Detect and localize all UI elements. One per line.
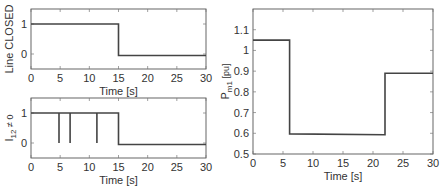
x-tick-label: 10 [83, 72, 95, 84]
x-tick-label: 5 [57, 161, 63, 173]
x-tick-label: 20 [142, 161, 154, 173]
y-tick-label: 0 [21, 48, 27, 60]
y-tick-label: 1.1 [234, 24, 249, 36]
x-tick-label: 25 [397, 157, 409, 169]
x-tick-label: 5 [57, 72, 63, 84]
y-axis-label: Pm1 [pu] [219, 64, 234, 100]
y-tick-label: 0.5 [234, 148, 249, 160]
x-tick-label: 0 [28, 72, 34, 84]
x-tick-label: 10 [307, 157, 319, 169]
plot-i12-nonzero: 05101520253001Time [s]I12 ≠ 0 [3, 98, 212, 186]
x-tick-label: 20 [142, 72, 154, 84]
x-tick-label: 5 [280, 157, 286, 169]
y-tick-label: 0.6 [234, 127, 249, 139]
x-axis-label: Time [s] [99, 174, 138, 186]
y-tick-label: 1 [243, 44, 249, 56]
plot-pm1: 0510152025300.50.60.70.80.911.1Time [s]P… [219, 9, 439, 182]
x-tick-label: 25 [171, 161, 183, 173]
x-tick-label: 15 [112, 161, 124, 173]
data-series-line [31, 24, 206, 56]
figure: 05101520253001Time [s]Line CLOSED 051015… [0, 0, 444, 193]
x-tick-label: 30 [200, 72, 212, 84]
x-tick-label: 20 [367, 157, 379, 169]
y-tick-label: 1 [21, 107, 27, 119]
x-tick-label: 0 [250, 157, 256, 169]
y-tick-label: 0.7 [234, 107, 249, 119]
plot-line-closed: 05101520253001Time [s]Line CLOSED [3, 4, 212, 97]
data-series-line [253, 40, 433, 135]
y-tick-label: 0.9 [234, 65, 249, 77]
x-tick-label: 0 [28, 161, 34, 173]
x-axis-label: Time [s] [99, 85, 138, 97]
x-tick-label: 30 [200, 161, 212, 173]
x-tick-label: 10 [83, 161, 95, 173]
x-axis-label: Time [s] [324, 170, 363, 182]
y-axis-label: I12 ≠ 0 [3, 115, 18, 142]
data-series-line [31, 113, 206, 145]
x-tick-label: 30 [427, 157, 439, 169]
y-axis-label: Line CLOSED [3, 4, 15, 73]
x-tick-label: 15 [112, 72, 124, 84]
x-tick-label: 25 [171, 72, 183, 84]
y-tick-label: 1 [21, 18, 27, 30]
y-tick-label: 0.8 [234, 86, 249, 98]
y-tick-label: 0 [21, 137, 27, 149]
x-tick-label: 15 [337, 157, 349, 169]
plot-frame [253, 9, 433, 154]
